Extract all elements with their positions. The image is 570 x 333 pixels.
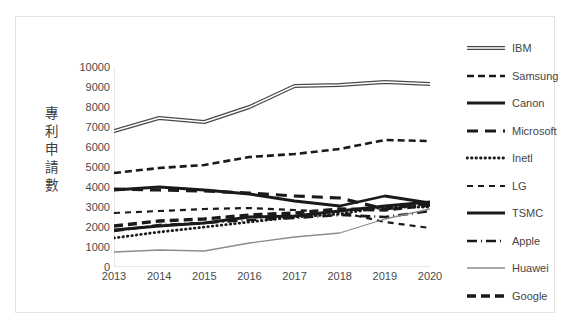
legend-label: Microsoft bbox=[512, 125, 557, 137]
legend-label: Samsung bbox=[512, 70, 558, 82]
x-axis-tick-labels: 20132014201520162017201820192020 bbox=[114, 270, 430, 288]
y-axis-title-char: 請 bbox=[38, 159, 64, 177]
y-axis-tick-label: 9000 bbox=[86, 81, 110, 93]
legend-label: Canon bbox=[512, 97, 544, 109]
y-axis-tick-label: 6000 bbox=[86, 141, 110, 153]
x-axis-tick-label: 2017 bbox=[282, 270, 306, 282]
legend-item-huawei[interactable]: Huawei bbox=[466, 261, 570, 275]
y-axis-tick-label: 1000 bbox=[86, 241, 110, 253]
series-line bbox=[114, 187, 430, 206]
x-axis-tick-label: 2020 bbox=[418, 270, 442, 282]
legend-swatch-inetl bbox=[466, 152, 506, 164]
x-axis-tick-label: 2013 bbox=[102, 270, 126, 282]
y-axis-tick-labels: 0100020003000400050006000700080009000100… bbox=[66, 61, 110, 271]
x-axis-tick-label: 2018 bbox=[327, 270, 351, 282]
x-axis-tick-label: 2019 bbox=[373, 270, 397, 282]
legend-label: IBM bbox=[512, 42, 532, 54]
series-line bbox=[114, 140, 430, 173]
legend-label: TSMC bbox=[512, 207, 543, 219]
x-axis-tick-label: 2014 bbox=[147, 270, 171, 282]
series-line-inner bbox=[114, 82, 430, 131]
legend-swatch-canon bbox=[466, 97, 506, 109]
legend-item-apple[interactable]: Apple bbox=[466, 234, 570, 248]
legend-label: Google bbox=[512, 290, 547, 302]
legend-item-canon[interactable]: Canon bbox=[466, 96, 570, 110]
y-axis-title-char: 專 bbox=[38, 105, 64, 123]
chart-legend: IBMSamsungCanonMicrosoftInetlLGTSMCApple… bbox=[466, 41, 570, 319]
y-axis-tick-label: 5000 bbox=[86, 161, 110, 173]
legend-swatch-apple bbox=[466, 235, 506, 247]
legend-item-microsoft[interactable]: Microsoft bbox=[466, 124, 570, 138]
series-ibm bbox=[114, 82, 430, 131]
legend-swatch-tsmc bbox=[466, 207, 506, 219]
y-axis-title: 專利申請數 bbox=[38, 105, 64, 195]
series-line bbox=[114, 82, 430, 131]
legend-label: LG bbox=[512, 180, 527, 192]
legend-item-lg[interactable]: LG bbox=[466, 179, 570, 193]
legend-item-ibm[interactable]: IBM bbox=[466, 41, 570, 55]
legend-label: Inetl bbox=[512, 152, 533, 164]
legend-item-samsung[interactable]: Samsung bbox=[466, 69, 570, 83]
legend-item-inetl[interactable]: Inetl bbox=[466, 151, 570, 165]
chart-frame: 專利申請數 0100020003000400050006000700080009… bbox=[15, 16, 555, 313]
legend-swatch-google bbox=[466, 290, 506, 302]
legend-swatch-microsoft bbox=[466, 125, 506, 137]
x-axis-tick-label: 2016 bbox=[237, 270, 261, 282]
legend-item-tsmc[interactable]: TSMC bbox=[466, 206, 570, 220]
y-axis-tick-label: 3000 bbox=[86, 201, 110, 213]
plot-area bbox=[114, 67, 430, 267]
legend-swatch-samsung bbox=[466, 70, 506, 82]
y-axis-tick-label: 7000 bbox=[86, 121, 110, 133]
legend-swatch-ibm bbox=[466, 42, 506, 54]
series-samsung bbox=[114, 140, 430, 173]
y-axis-title-char: 申 bbox=[38, 141, 64, 159]
y-axis-tick-label: 10000 bbox=[79, 61, 110, 73]
y-axis-tick-label: 2000 bbox=[86, 221, 110, 233]
x-axis-tick-label: 2015 bbox=[192, 270, 216, 282]
legend-label: Huawei bbox=[512, 262, 549, 274]
legend-swatch-huawei bbox=[466, 262, 506, 274]
y-axis-title-char: 數 bbox=[38, 177, 64, 195]
y-axis-title-char: 利 bbox=[38, 123, 64, 141]
legend-swatch-lg bbox=[466, 180, 506, 192]
legend-label: Apple bbox=[512, 235, 540, 247]
legend-item-google[interactable]: Google bbox=[466, 289, 570, 303]
plot-svg bbox=[114, 67, 430, 267]
y-axis-tick-label: 8000 bbox=[86, 101, 110, 113]
y-axis-tick-label: 4000 bbox=[86, 181, 110, 193]
series-canon bbox=[114, 187, 430, 206]
